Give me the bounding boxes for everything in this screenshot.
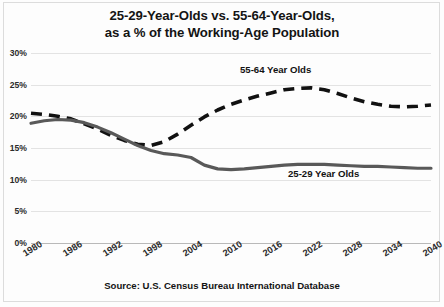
y-axis-tick-label: 10% (0, 176, 27, 185)
plot-area (31, 53, 431, 243)
chart-title-line-2: as a % of the Working-Age Population (0, 24, 444, 41)
y-axis-tick-label: 20% (0, 112, 27, 121)
source-note: Source: U.S. Census Bureau International… (0, 280, 444, 291)
chart-title: 25-29-Year-Olds vs. 55-64-Year-Olds, as … (0, 7, 444, 41)
y-axis-tick-label: 0% (0, 239, 27, 248)
series-label-25-29: 25-29 Year Olds (288, 168, 359, 179)
y-axis-tick-label: 25% (0, 81, 27, 90)
y-axis-tick-label: 5% (0, 207, 27, 216)
y-axis-tick-label: 30% (0, 49, 27, 58)
line-55-64-year-olds (31, 88, 431, 146)
chart-figure: 25-29-Year-Olds vs. 55-64-Year-Olds, as … (0, 0, 444, 307)
series-lines (31, 53, 431, 243)
series-label-55-64: 55-64 Year Olds (240, 64, 311, 75)
clipped-header-text (120, 0, 320, 4)
y-axis-tick-label: 15% (0, 144, 27, 153)
chart-title-line-1: 25-29-Year-Olds vs. 55-64-Year-Olds, (109, 8, 334, 23)
